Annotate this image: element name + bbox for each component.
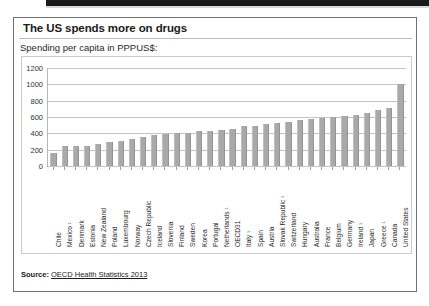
- y-tick-label: 800: [0, 96, 43, 105]
- x-tick: [232, 167, 233, 170]
- y-tick-label: 0: [0, 162, 43, 171]
- x-tick: [299, 167, 300, 170]
- x-tick: [109, 167, 110, 170]
- x-category-label: Norway: [134, 225, 141, 247]
- bar: [308, 119, 314, 166]
- x-category-label: Estonia: [89, 225, 96, 247]
- x-category-label: Sweden: [189, 223, 196, 247]
- bar: [95, 144, 101, 166]
- source-link[interactable]: OECD Health Statistics 2013: [51, 270, 147, 279]
- chart-subtitle: Spending per capita in PPPUS$:: [20, 42, 157, 53]
- bar: [84, 146, 90, 166]
- x-tick: [209, 167, 210, 170]
- x-tick: [86, 167, 87, 170]
- x-tick: [243, 167, 244, 170]
- bar: [229, 129, 235, 166]
- bar: [319, 118, 325, 166]
- y-tick-label: 1200: [0, 64, 43, 73]
- bar: [73, 146, 79, 166]
- x-tick: [310, 167, 311, 170]
- bar: [274, 123, 280, 166]
- bar: [185, 133, 191, 166]
- bar: [252, 126, 258, 166]
- bar: [364, 113, 370, 166]
- x-category-label: Chile: [55, 232, 62, 247]
- bar: [140, 137, 146, 166]
- title-divider: [19, 38, 412, 39]
- x-tick: [53, 167, 54, 170]
- y-tick-label: 200: [0, 145, 43, 154]
- x-category-label: Italy ¹: [245, 231, 252, 247]
- y-tick-label: 400: [0, 129, 43, 138]
- bar: [151, 135, 157, 166]
- bar: [207, 131, 213, 166]
- x-category-label: Germany: [346, 220, 353, 247]
- x-category-label: United States: [402, 207, 409, 247]
- bar: [397, 84, 403, 166]
- x-category-label: Mexico ¹: [66, 222, 73, 247]
- bar: [375, 110, 381, 166]
- y-tick-label: 600: [0, 113, 43, 122]
- x-tick: [276, 167, 277, 170]
- x-tick: [254, 167, 255, 170]
- x-tick: [198, 167, 199, 170]
- x-tick: [377, 167, 378, 170]
- bar: [218, 130, 224, 166]
- x-tick: [343, 167, 344, 170]
- x-category-label: Switzerland: [290, 213, 297, 247]
- bar: [118, 141, 124, 166]
- x-category-label: Austria: [268, 226, 275, 247]
- x-tick: [97, 167, 98, 170]
- x-tick: [120, 167, 121, 170]
- x-category-label: Hungary: [301, 222, 308, 247]
- bar: [353, 115, 359, 166]
- x-category-label: France: [324, 226, 331, 247]
- x-category-label: Belgium: [335, 223, 342, 247]
- x-category-label: Netherlands ¹: [223, 207, 230, 247]
- x-tick: [187, 167, 188, 170]
- x-category-label: Portugal: [212, 222, 219, 247]
- x-category-label: Luxembourg: [122, 210, 129, 247]
- x-tick: [388, 167, 389, 170]
- x-category-label: Canada: [391, 224, 398, 247]
- y-tick-label: 1000: [0, 80, 43, 89]
- bar: [196, 131, 202, 166]
- x-category-label: Czech Republic: [145, 201, 152, 247]
- source-note: Source: OECD Health Statistics 2013: [21, 270, 147, 279]
- x-tick: [142, 167, 143, 170]
- bar: [341, 116, 347, 166]
- x-category-label: Poland: [111, 226, 118, 247]
- chart-title: The US spends more on drugs: [23, 22, 187, 34]
- x-category-label: Greece ¹: [380, 221, 387, 247]
- x-tick: [366, 167, 367, 170]
- x-category-label: Iceland: [156, 226, 163, 247]
- bar: [330, 117, 336, 166]
- x-tick: [176, 167, 177, 170]
- x-tick: [288, 167, 289, 170]
- x-category-label: OECD31: [234, 221, 241, 247]
- x-category-label: Korea: [201, 229, 208, 247]
- x-category-label: Finland: [178, 225, 185, 247]
- x-tick: [220, 167, 221, 170]
- x-category-label: New Zealand: [100, 208, 107, 247]
- bar: [297, 120, 303, 166]
- bar: [129, 139, 135, 166]
- x-category-label: Australia: [313, 221, 320, 247]
- bar: [62, 146, 68, 166]
- bar: [263, 124, 269, 166]
- x-axis-category-labels: ChileMexico ¹DenmarkEstoniaNew ZealandPo…: [47, 167, 406, 251]
- x-tick: [153, 167, 154, 170]
- scan-artifact-top-shadow: [46, 6, 429, 8]
- x-tick: [332, 167, 333, 170]
- bar: [174, 133, 180, 166]
- bars-container: [48, 68, 406, 166]
- bar: [241, 126, 247, 166]
- x-category-label: Slovak Republic ¹: [279, 196, 286, 247]
- x-category-label: Slovenia: [167, 222, 174, 247]
- x-tick: [64, 167, 65, 170]
- x-tick: [355, 167, 356, 170]
- x-category-label: Ireland ¹: [357, 223, 364, 247]
- x-tick: [164, 167, 165, 170]
- x-category-label: Spain: [257, 230, 264, 247]
- x-tick: [75, 167, 76, 170]
